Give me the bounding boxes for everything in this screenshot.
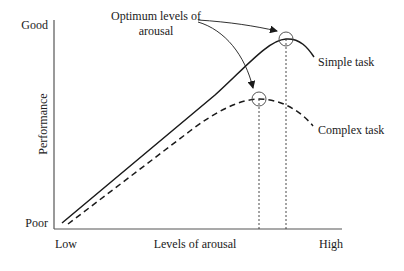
y-axis-bottom-label: Poor [25,216,48,230]
simple-task-label: Simple task [318,55,374,69]
x-axis-label: Levels of arousal [154,237,237,251]
annotation-arrow-simple [198,20,277,31]
complex-task-label: Complex task [318,123,384,137]
annotation-arrow-complex [198,22,253,88]
complex-task-curve [68,99,313,224]
y-axis-top-label: Good [21,18,48,32]
annotation-line-1: Optimum levels of [111,9,201,23]
y-axis-label: Performance [36,93,50,154]
x-axis-left-label: Low [55,237,77,251]
annotation-line-2: arousal [139,24,174,38]
arousal-performance-diagram: Good Poor Performance Low Levels of arou… [0,0,404,271]
simple-task-curve [62,39,314,223]
x-axis-right-label: High [319,237,343,251]
